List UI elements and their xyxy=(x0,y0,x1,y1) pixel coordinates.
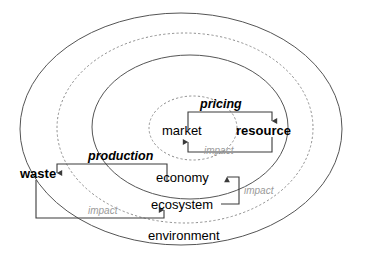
flow-impact-ecosystem-label: impact xyxy=(88,206,117,216)
node-waste-label: waste xyxy=(20,167,56,180)
flow-impact-economy-label: impact xyxy=(244,186,273,196)
node-resource-label: resource xyxy=(236,124,291,137)
node-market-label: market xyxy=(162,124,202,137)
flow-production-label: production xyxy=(88,150,153,163)
flow-pricing-label: pricing xyxy=(200,98,242,111)
flow-impact-market-label: impact xyxy=(204,146,233,156)
node-environment-label: environment xyxy=(148,229,220,242)
diagram-canvas: market resource economy ecosystem waste … xyxy=(0,0,370,255)
flow-production-connector xyxy=(57,164,167,182)
node-economy-label: economy xyxy=(156,171,209,184)
node-ecosystem-label: ecosystem xyxy=(151,198,213,211)
